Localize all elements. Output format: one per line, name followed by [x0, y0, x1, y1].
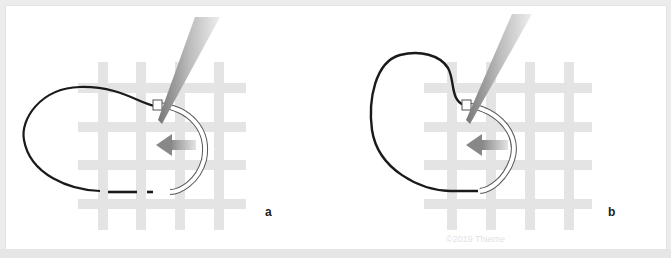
illustration [0, 0, 671, 258]
forceps-a [158, 17, 220, 124]
bottom-band [0, 249, 671, 258]
suture-a [23, 87, 155, 191]
panel-label-a: a [265, 205, 272, 219]
watermark: ©2019 Thieme [446, 234, 505, 244]
panel-label-b: b [608, 205, 615, 219]
forceps-b [466, 14, 532, 124]
